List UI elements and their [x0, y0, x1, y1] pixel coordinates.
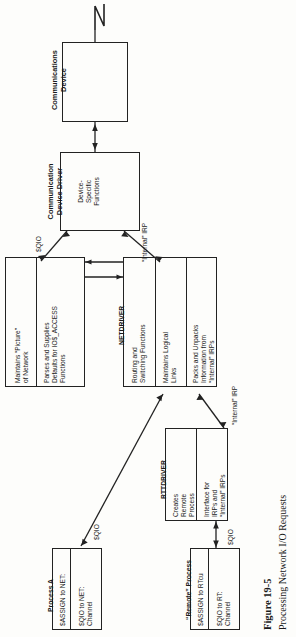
cell-maintains-picture-of-network: Maintains “Picture” of Network: [14, 259, 30, 383]
cell-qio-to-net-channel: $QIO to NET: Channel: [78, 546, 94, 626]
cell-device-specific-functions: Device- Specific Functions: [77, 158, 101, 225]
cell-maintains-logical-links: Maintains Logical Links: [162, 259, 178, 383]
cell-parses-and-supplies-defaults: Parses and Supplies Defaults for IO$_ACC…: [43, 259, 67, 383]
netdriver-divider-1: [155, 257, 156, 387]
edge-label-internal-irp-driver: “Internal” IRP: [141, 223, 149, 262]
edge-label-internal-irp-rtt: “Internal” IRP: [231, 386, 239, 425]
cell-assign-to-rtcu: $ASSIGN to RTcu: [197, 546, 205, 626]
cell-assign-to-net: $ASSIGN to NET:: [59, 546, 67, 626]
rttdriver-title: RTTDRIVER: [160, 460, 168, 499]
communication-device-driver-label-line2: Device Driver: [55, 152, 64, 231]
netdriver-divider-2: [186, 257, 187, 387]
process-a-title: Process A: [47, 579, 55, 612]
figure-page: Communications Device Communication Devi…: [0, 0, 296, 637]
cell-interface-for-irps: Interface for IRPs and “Internal” IRPs: [203, 427, 227, 517]
communication-device-driver-label: Communication Device Driver: [46, 152, 64, 231]
remote-process-divider: [208, 548, 209, 630]
communication-device-driver-label-line1: Communication: [46, 152, 55, 231]
cell-qio-to-rt-channel: $QIO to RT: Channel: [216, 546, 232, 626]
edge-label-qio-remote: $QIO: [227, 529, 235, 545]
communications-device-label: Communications Device: [50, 40, 68, 120]
communications-device-label-line1: Communications: [50, 40, 59, 120]
cell-creates-remote-process: Creates Remote Process: [172, 427, 196, 517]
support-box-divider: [36, 257, 37, 387]
cell-packs-and-unpacks: Packs and Unpacks Information from “Inte…: [192, 259, 216, 383]
figure-number: Figure 19-5: [262, 579, 273, 630]
edge-label-qio-process-a: $QIO: [93, 524, 101, 540]
edge-label-qio-driver: $QIO: [35, 236, 43, 252]
process-a-divider: [70, 548, 71, 630]
cell-routing-and-switching: Routing and Switching Functions: [131, 259, 147, 383]
node-communications-device: [62, 42, 128, 122]
figure-caption: Processing Network I/O Requests: [277, 495, 288, 630]
communications-device-label-line2: Device: [59, 40, 68, 120]
netdriver-title: NETDRIVER: [118, 306, 126, 345]
remote-process-title: “Remote” Process: [185, 560, 193, 620]
